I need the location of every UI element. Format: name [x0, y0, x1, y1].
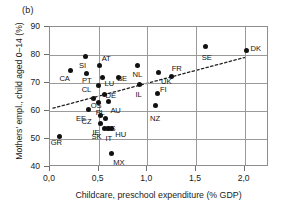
data-point-label: AT [102, 54, 111, 63]
x-tick-mark [195, 166, 196, 171]
data-point-label: CL [82, 85, 92, 94]
x-gridline [147, 27, 148, 165]
data-point-label: SE [202, 53, 212, 62]
y-tick-label: 70 [8, 77, 40, 87]
data-point-label: SI [79, 61, 86, 70]
x-tick-label: 1,0 [126, 173, 166, 183]
data-point-label: UK [161, 77, 171, 86]
trend-line [50, 27, 269, 167]
y-gridline [50, 139, 267, 140]
data-point [84, 71, 89, 76]
x-axis-label: Childcare, preschool expenditure (% GDP) [49, 190, 268, 200]
data-point [135, 63, 140, 68]
data-point-label: BE [117, 74, 127, 83]
data-point [83, 54, 88, 59]
data-point-label: HU [115, 130, 126, 139]
x-tick-mark [146, 166, 147, 171]
y-tick-mark [44, 138, 49, 139]
y-tick-label: 50 [8, 133, 40, 143]
y-axis-label: Mothers' empl., child aged 0–14 (%) [14, 11, 24, 171]
x-tick-mark [49, 166, 50, 171]
y-tick-mark [44, 110, 49, 111]
data-point [96, 83, 101, 88]
y-gridline [50, 111, 267, 112]
data-point-label: CA [59, 74, 69, 83]
data-point [244, 48, 249, 53]
data-point-label: GR [51, 138, 62, 147]
x-tick-label: 1,5 [175, 173, 215, 183]
data-point-label: IL [136, 90, 142, 99]
data-point-label: NZ [150, 114, 160, 123]
data-point [156, 70, 161, 75]
x-tick-label: 2,0 [224, 173, 264, 183]
data-point [109, 151, 114, 156]
y-tick-mark [44, 82, 49, 83]
y-tick-label: 80 [8, 49, 40, 59]
data-point-label: FR [172, 64, 182, 73]
data-point [137, 82, 142, 87]
scatter-chart-figure: (b) Mothers' empl., child aged 0–14 (%) … [0, 0, 288, 209]
y-tick-mark [44, 54, 49, 55]
x-gridline [196, 27, 197, 165]
data-point [155, 91, 160, 96]
y-tick-label: 60 [8, 105, 40, 115]
y-tick-label: 40 [8, 161, 40, 171]
data-point-label: PL [96, 108, 105, 117]
data-point [97, 63, 102, 68]
data-point-label: NL [133, 70, 143, 79]
y-tick-label: 90 [8, 21, 40, 31]
data-point-label: PT [82, 76, 92, 85]
data-point-label: SK [92, 132, 102, 141]
x-tick-mark [244, 166, 245, 171]
data-point-label: LU [105, 79, 115, 88]
data-point-label: IT [105, 134, 112, 143]
data-point [153, 103, 158, 108]
data-point-label: ES [105, 124, 115, 133]
data-point-label: DK [251, 44, 261, 53]
data-point [106, 99, 111, 104]
data-point-label: FI [160, 85, 167, 94]
x-tick-mark [98, 166, 99, 171]
plot-area [49, 26, 268, 166]
x-tick-label: 0,0 [29, 173, 69, 183]
data-point [68, 68, 73, 73]
data-point-label: CZ [82, 117, 92, 126]
x-tick-label: 0,5 [78, 173, 118, 183]
data-point-label: DE [106, 91, 116, 100]
y-tick-mark [44, 26, 49, 27]
data-point-label: MX [113, 158, 124, 167]
data-point [203, 44, 208, 49]
x-gridline [99, 27, 100, 165]
data-point-label: AU [110, 106, 120, 115]
